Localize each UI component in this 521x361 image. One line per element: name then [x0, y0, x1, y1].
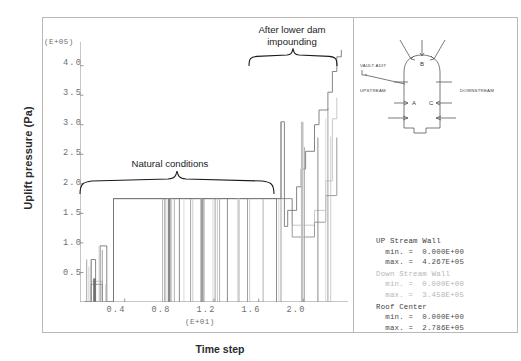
- stat-series-name: Roof Center: [376, 302, 464, 313]
- panel-divider: [353, 18, 354, 332]
- stat-max-row: max. = 4.267E+05: [376, 257, 464, 268]
- y-axis-title: Uplift pressure (Pa): [22, 78, 34, 238]
- stat-min-row: min. = 0.000E+00: [376, 312, 464, 323]
- x-axis-title: Time step: [120, 343, 320, 355]
- upstream-label: UPSTREAM: [360, 88, 386, 93]
- ray-left: [400, 40, 411, 59]
- stat-series-name: UP Stream Wall: [376, 236, 464, 247]
- annotation-after-lower-dam-impounding: After lower dam impounding: [240, 24, 344, 47]
- y-axis-multiplier: (E+05): [44, 38, 74, 46]
- point-b-label: B: [420, 61, 424, 67]
- x-tick-0-8: 0.8: [151, 305, 170, 315]
- x-axis-multiplier: (E+01): [185, 318, 215, 326]
- stat-group-0: UP Stream Wall min. = 0.000E+00 max. = 4…: [376, 236, 464, 268]
- vault-adit-label: VAULT ADIT: [360, 63, 387, 68]
- statistics-panel: UP Stream Wall min. = 0.000E+00 max. = 4…: [376, 236, 464, 334]
- x-tick-0-4: 0.4: [106, 305, 125, 315]
- dam-cross-section-diagram: VAULT ADIT UPSTREAM DOWNSTREAM A B C: [356, 40, 516, 148]
- stat-group-2: Roof Center min. = 0.000E+00 max. = 2.78…: [376, 302, 464, 334]
- stat-group-1: Down Stream Wall min. = 0.000E+00 max. =…: [376, 269, 464, 301]
- series-line-down-stream-wall: [85, 98, 337, 302]
- vault-adit-marker: [362, 70, 367, 75]
- brace-after-impounding: [247, 48, 339, 68]
- point-c-label: C: [429, 100, 434, 106]
- x-tick-1-2: 1.2: [196, 305, 215, 315]
- brace-natural-conditions: [78, 170, 278, 196]
- stat-series-name: Down Stream Wall: [376, 269, 464, 280]
- stat-max-row: max. = 3.458E+05: [376, 290, 464, 301]
- point-a-label: A: [412, 100, 416, 106]
- x-tick-1-6: 1.6: [241, 305, 260, 315]
- stat-min-row: min. = 0.000E+00: [376, 279, 464, 290]
- annotation-natural-conditions: Natural conditions: [110, 158, 230, 170]
- annotation-impound-line1: After lower dam: [240, 24, 344, 36]
- x-axis-tick-labels: 0.4 0.8 1.2 1.6 2.0: [80, 305, 348, 319]
- ray-right: [434, 40, 445, 59]
- stat-min-row: min. = 0.000E+00: [376, 247, 464, 258]
- x-tick-2-0: 2.0: [286, 305, 305, 315]
- annotation-impound-line2: impounding: [240, 36, 344, 48]
- arrowhead-left: [411, 56, 415, 60]
- downstream-label: DOWNSTREAM: [460, 88, 494, 93]
- vault-adit-leader: [365, 75, 405, 84]
- stat-max-row: max. = 2.786E+05: [376, 323, 464, 334]
